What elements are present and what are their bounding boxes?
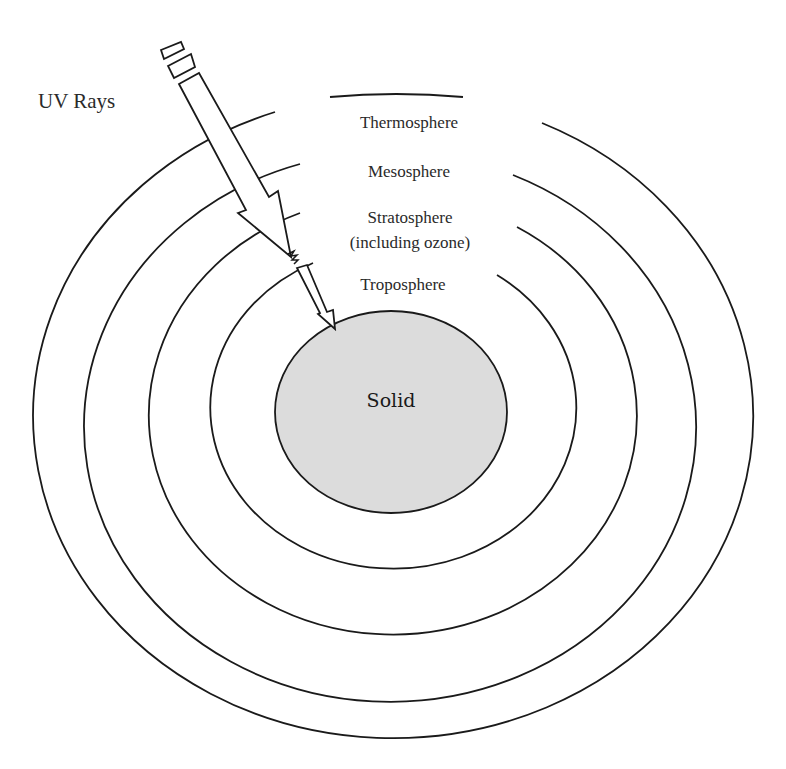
thermosphere-label: Thermosphere xyxy=(360,113,458,132)
troposphere-label: Troposphere xyxy=(360,275,445,294)
uv-rays-label: UV Rays xyxy=(38,89,115,113)
thermosphere-ring-top-segment xyxy=(330,94,463,97)
solid-core xyxy=(275,311,507,513)
stratosphere-sublabel: (including ozone) xyxy=(350,233,470,252)
solid-core-label: Solid xyxy=(367,389,416,411)
uv-ray-arrow-icon xyxy=(161,42,335,329)
mesosphere-label: Mesosphere xyxy=(368,162,450,181)
atmosphere-layers-diagram: UV Rays Thermosphere Mesosphere Stratosp… xyxy=(0,0,786,769)
stratosphere-label: Stratosphere xyxy=(368,208,453,227)
